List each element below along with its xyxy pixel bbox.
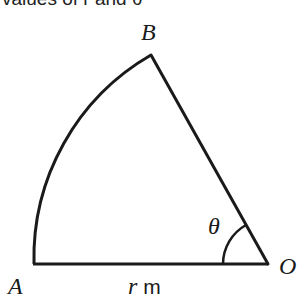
angle-marker-theta xyxy=(223,225,246,264)
radius-label: r m xyxy=(128,274,161,298)
label-O: O xyxy=(279,254,296,278)
label-B: B xyxy=(141,20,156,44)
radius-unit: m xyxy=(137,275,160,298)
arc-AB xyxy=(34,55,151,264)
sector-diagram xyxy=(0,0,308,300)
radius-variable: r xyxy=(128,273,137,299)
label-A: A xyxy=(8,274,23,298)
label-theta: θ xyxy=(208,214,220,238)
